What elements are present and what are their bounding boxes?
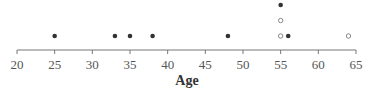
open-dot: [278, 34, 282, 38]
filled-dot: [113, 34, 118, 39]
open-dot: [346, 34, 350, 38]
filled-dot: [128, 34, 133, 39]
data-points: [52, 3, 350, 39]
tick-label: 65: [350, 57, 363, 72]
tick-label: 20: [11, 57, 24, 72]
tick-label: 55: [274, 57, 287, 72]
tick-label: 50: [237, 57, 250, 72]
filled-dot: [278, 3, 283, 8]
open-dot: [278, 18, 282, 22]
tick-label: 60: [312, 57, 325, 72]
tick-label: 30: [86, 57, 99, 72]
tick-label: 45: [199, 57, 212, 72]
x-axis: [17, 50, 356, 54]
x-axis-tick-labels: 20253035404550556065: [11, 57, 363, 72]
tick-label: 40: [161, 57, 174, 72]
filled-dot: [150, 34, 155, 39]
dot-plot: 20253035404550556065 Age: [0, 0, 374, 92]
tick-label: 35: [124, 57, 137, 72]
filled-dot: [286, 34, 291, 39]
tick-label: 25: [48, 57, 61, 72]
x-axis-title: Age: [175, 73, 198, 88]
filled-dot: [52, 34, 57, 39]
filled-dot: [226, 34, 231, 39]
